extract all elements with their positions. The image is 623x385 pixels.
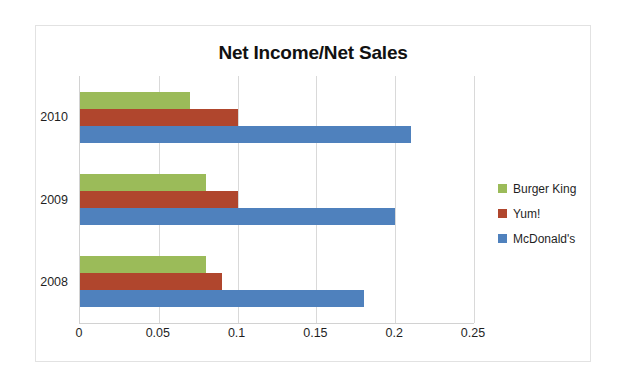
legend-item-yum[interactable]: Yum!: [498, 201, 586, 226]
gridline-0.25: [474, 76, 475, 323]
bar-group-2010: 2010: [80, 92, 474, 143]
bar-2008-mcdonald-s: [80, 290, 364, 307]
x-tick-label-0.2: 0.2: [385, 326, 402, 340]
chart-title: Net Income/Net Sales: [36, 42, 590, 64]
x-tick-label-0.25: 0.25: [461, 326, 485, 340]
chart-legend: Burger KingYum!McDonald's: [498, 176, 586, 251]
y-axis-label-2010: 2010: [40, 110, 68, 124]
legend-swatch-icon: [498, 184, 507, 193]
x-tick-label-0.05: 0.05: [146, 326, 170, 340]
legend-item-burger-king[interactable]: Burger King: [498, 176, 586, 201]
legend-swatch-icon: [498, 209, 507, 218]
legend-item-mcdonald-s[interactable]: McDonald's: [498, 226, 586, 251]
y-axis-label-2008: 2008: [40, 275, 68, 289]
bar-2009-yum: [80, 191, 238, 208]
y-axis-label-2009: 2009: [40, 193, 68, 207]
x-tick-label-0.1: 0.1: [228, 326, 245, 340]
bar-2009-mcdonald-s: [80, 208, 395, 225]
x-axis-tick-labels: 00.050.10.150.20.25: [79, 326, 473, 346]
legend-label: Yum!: [513, 207, 540, 221]
bar-2010-burger-king: [80, 92, 190, 109]
legend-label: Burger King: [513, 182, 576, 196]
chart-container: Net Income/Net Sales 201020092008 00.050…: [35, 25, 591, 362]
plot-area: 201020092008: [79, 76, 474, 324]
x-tick-label-0: 0: [76, 326, 83, 340]
bar-2010-mcdonald-s: [80, 126, 411, 143]
bar-2008-yum: [80, 273, 222, 290]
bar-group-2009: 2009: [80, 174, 474, 225]
x-tick-label-0.15: 0.15: [303, 326, 327, 340]
legend-swatch-icon: [498, 234, 507, 243]
legend-label: McDonald's: [513, 232, 575, 246]
bar-group-2008: 2008: [80, 256, 474, 307]
bar-2009-burger-king: [80, 174, 206, 191]
bar-2008-burger-king: [80, 256, 206, 273]
bar-2010-yum: [80, 109, 238, 126]
